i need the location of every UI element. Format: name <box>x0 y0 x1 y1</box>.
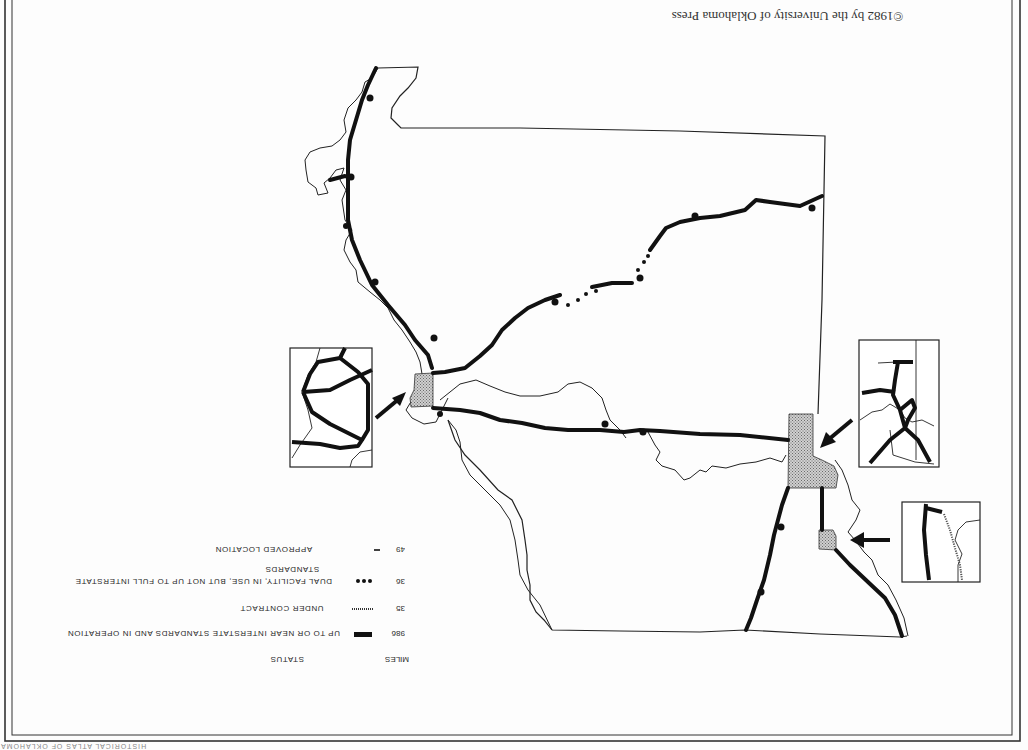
city-markers <box>343 95 816 596</box>
city-marker <box>640 429 647 436</box>
highway-i44-northeast-3 <box>650 196 822 250</box>
footer-strip-text: HISTORICAL ATLAS OF OKLAHOMA <box>0 741 210 750</box>
city-marker <box>437 411 443 417</box>
city-marker <box>372 279 379 286</box>
inset-arrow-okc <box>376 392 406 418</box>
city-marker <box>809 205 816 212</box>
legend-symbols <box>352 550 380 637</box>
highway-i40-east <box>433 408 788 440</box>
legend-miles-value: 36 <box>387 577 405 586</box>
legend-miles-value: 35 <box>387 604 405 613</box>
state-boundary <box>378 67 907 637</box>
urban-area-tulsa <box>788 414 838 488</box>
legend-label: APPROVED LOCATION <box>215 545 340 554</box>
urban-area-okc-main <box>410 373 433 407</box>
legend-miles-value: 986 <box>387 629 405 638</box>
city-marker <box>552 299 559 306</box>
urban-areas <box>410 373 838 550</box>
copyright-notice: ©1982 by the University of Oklahoma Pres… <box>605 8 970 24</box>
city-marker <box>637 275 644 282</box>
legend-miles-value: 49 <box>387 545 405 554</box>
river-east-lower <box>835 460 908 636</box>
river-south <box>448 420 552 630</box>
legend-symbol-dotted <box>356 579 372 583</box>
legend-label: UNDER CONTRACT <box>240 604 340 613</box>
city-marker <box>778 524 785 531</box>
legend-label: DUAL FACILITY, IN USE, BUT NOT UP TO FUL… <box>75 577 340 586</box>
map-page: ©1982 by the University of Oklahoma Pres… <box>0 0 1028 750</box>
city-marker <box>431 335 438 342</box>
legend-label: UP TO OR NEAR INTERSTATE STANDARDS AND I… <box>80 629 340 638</box>
legend-status-header: STATUS <box>270 655 332 664</box>
inset-arrow-tulsa <box>820 420 852 448</box>
legend-symbol-solid <box>354 632 372 637</box>
legend-label-continued: STANDARDS <box>265 565 340 574</box>
inset-tulsa <box>859 340 939 467</box>
city-marker <box>348 174 355 181</box>
highway-i35-north <box>348 68 432 368</box>
inset-arrow-lawton <box>850 532 890 548</box>
city-marker <box>758 589 765 596</box>
highway-i44-northeast <box>433 295 560 373</box>
legend-miles-header: MILES <box>385 655 417 664</box>
city-marker <box>367 95 374 102</box>
inset-lawton <box>902 502 980 582</box>
city-marker <box>692 213 699 220</box>
urban-area-lawton <box>819 530 836 550</box>
city-marker <box>602 421 609 428</box>
city-marker <box>343 223 349 229</box>
highway-i35-south <box>746 488 788 630</box>
inset-oklahoma-city <box>290 348 372 467</box>
highway-i44-northeast-2 <box>592 283 632 287</box>
dual-facility-segments <box>566 254 650 307</box>
